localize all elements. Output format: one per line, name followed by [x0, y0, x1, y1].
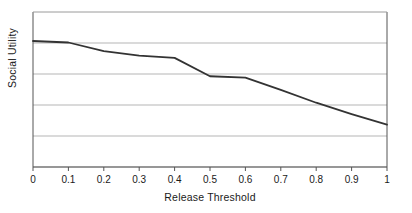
x-tick-label: 0.4 — [168, 174, 182, 185]
x-tick-label: 0.2 — [97, 174, 111, 185]
line-chart-plot: 00.10.20.30.40.50.60.70.80.91 — [0, 0, 412, 213]
x-tick-label: 0.6 — [238, 174, 252, 185]
x-tick-label: 0.5 — [203, 174, 217, 185]
x-tick-label: 0.7 — [274, 174, 288, 185]
x-tick-label: 0.9 — [345, 174, 359, 185]
x-axis-tick-labels: 00.10.20.30.40.50.60.70.80.91 — [30, 174, 390, 185]
x-tick-label: 0.1 — [61, 174, 75, 185]
chart-figure: Social Utility 00.10.20.30.40.50.60.70.8… — [0, 0, 412, 213]
x-axis-ticks — [33, 167, 387, 171]
x-tick-label: 1 — [384, 174, 390, 185]
x-tick-label: 0.8 — [309, 174, 323, 185]
x-tick-label: 0 — [30, 174, 36, 185]
plot-background — [33, 12, 387, 167]
x-axis-title: Release Threshold — [33, 191, 387, 203]
x-tick-label: 0.3 — [132, 174, 146, 185]
